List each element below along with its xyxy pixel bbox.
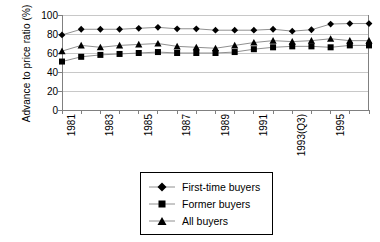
legend-label-first-time-buyers: First-time buyers	[182, 181, 260, 193]
x-tick-label: 1995	[335, 114, 346, 136]
legend-label-former-buyers: Former buyers	[182, 198, 250, 210]
plot-canvas	[62, 15, 369, 110]
chart-legend: First-time buyers Former buyers All buye…	[140, 172, 273, 235]
y-axis-title: Advance to price ratio (%)	[21, 0, 32, 144]
x-tick-label: 1985	[143, 114, 154, 136]
y-tick-label: 0	[52, 105, 58, 116]
plot-area: 020406080100 198119831985198719891991199…	[62, 15, 369, 110]
y-tick-label: 100	[41, 10, 58, 21]
y-tick-label: 80	[47, 29, 58, 40]
diamond-marker-icon	[149, 181, 175, 193]
y-tick-label: 20	[47, 86, 58, 97]
y-tick-label: 60	[47, 48, 58, 59]
x-tick-label: 1983	[104, 114, 115, 136]
legend-item-first-time-buyers: First-time buyers	[149, 178, 260, 195]
y-tick-label: 40	[47, 67, 58, 78]
x-tick-label: 1993(Q3)	[296, 114, 307, 156]
x-tick-label: 1991	[258, 114, 269, 136]
x-tick-label: 1981	[66, 114, 77, 136]
x-tick-label: 1987	[181, 114, 192, 136]
chart-figure: Advance to price ratio (%) 020406080100 …	[0, 0, 380, 242]
x-tick-label: 1989	[220, 114, 231, 136]
legend-item-former-buyers: Former buyers	[149, 195, 260, 212]
square-marker-icon	[149, 198, 175, 210]
legend-item-all-buyers: All buyers	[149, 212, 260, 229]
triangle-marker-icon	[149, 215, 175, 227]
legend-label-all-buyers: All buyers	[182, 215, 228, 227]
